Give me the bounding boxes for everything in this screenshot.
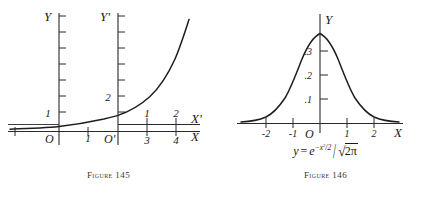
y-prime-tick-label-2: 2 [105,91,111,103]
equation-divide: / [331,139,338,162]
y-axis-ticks [320,51,328,99]
figures-container: Y Y' X' X O O' 1 2 1 1 2 3 4 Figure 145 [0,0,434,200]
x-tick-label-neg2: -2 [262,128,270,139]
x-prime-axis-label: X' [190,111,202,126]
exponential-curve [10,20,189,130]
x-tick-label-neg1: -1 [289,128,297,139]
y-axis-ticks [59,16,66,112]
figure-146-equation: y=e−x2/2/√2π [217,143,434,159]
origin-prime-label: O' [104,132,116,146]
x-tick-label-1: 1 [345,128,350,139]
x-axis-label: X [393,125,403,140]
x-prime-axis-ticks [147,118,176,136]
figure-145-panel: Y Y' X' X O O' 1 2 1 1 2 3 4 Figure 145 [0,0,217,200]
y-tick-label-1: 1 [45,107,51,119]
equation-lhs: y [293,144,298,158]
x-tick-label-4: 4 [173,134,179,146]
y-tick-label-point1: .1 [305,94,313,105]
y-axis-label: Y [44,9,53,24]
equation-exponent: −x2/2 [315,143,331,152]
y-tick-label-point2: .2 [305,70,313,81]
x-prime-tick-label-1: 1 [144,107,150,119]
x-tick-label-2: 2 [372,128,377,139]
figure-146-caption: Figure 146 [217,170,434,180]
origin-label: O [305,127,314,141]
figure-146-plot: Y X O .3 .2 .1 -2 -1 1 2 [217,0,434,145]
x-prime-tick-label-2: 2 [173,107,179,119]
origin-label: O [45,132,54,146]
radical-icon: √ [338,144,346,160]
exponent-numerator: −x [315,143,323,152]
figure-145-plot: Y Y' X' X O O' 1 2 1 1 2 3 4 [0,0,217,170]
equation-operator: = [299,144,310,158]
y-tick-label-point3: .3 [305,46,313,57]
x-tick-label-3: 3 [143,134,150,146]
x-axis-label: X [190,129,200,144]
figure-146-panel: Y X O .3 .2 .1 -2 -1 1 2 y=e−x2/2/√2π Fi… [217,0,434,200]
y-prime-axis-label: Y' [100,9,110,24]
exponent-power: 2 [323,143,325,148]
y-axis-label: Y [325,12,334,27]
x-tick-label-1: 1 [85,132,91,144]
y-prime-axis-ticks [118,16,125,112]
figure-145-caption: Figure 145 [0,170,217,180]
equation-radicand: 2π [345,143,358,159]
